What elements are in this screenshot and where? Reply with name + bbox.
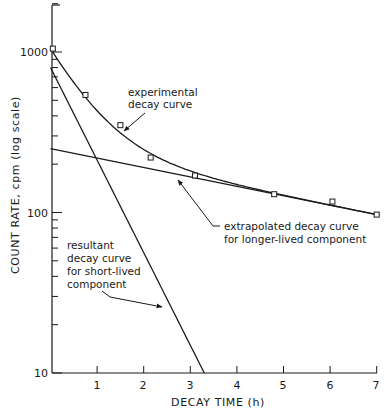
x-tick-label-7: 7 xyxy=(373,379,380,392)
annotation-experimental-arrow xyxy=(124,113,145,131)
axes xyxy=(52,5,377,373)
annotation-experimental-line1: experimental xyxy=(128,86,198,98)
annotation-extrapolated-line1: extrapolated decay curve xyxy=(224,220,359,232)
annotation-short-lived-arrow xyxy=(102,291,162,307)
extrapolated-longer-lived-line xyxy=(51,149,377,215)
annotation-short-lived-line2: decay curve xyxy=(67,252,131,264)
annotation-short-lived-line1: resultant xyxy=(67,239,114,251)
y-tick-label-10: 10 xyxy=(34,367,48,380)
x-tick-label-3: 3 xyxy=(187,379,194,392)
annotation-experimental: experimental decay curve xyxy=(124,86,198,131)
data-point-square xyxy=(148,155,153,160)
annotation-extrapolated: extrapolated decay curve for longer-live… xyxy=(178,180,366,245)
short-lived-component-line xyxy=(51,68,205,373)
annotation-short-lived-line3: for short-lived xyxy=(67,265,141,277)
decay-chart: 1000 100 10 1 2 3 4 5 6 7 DECAY TIME (h)… xyxy=(0,0,386,410)
y-tick-label-100: 100 xyxy=(27,207,48,220)
x-ticks xyxy=(97,366,377,373)
y-tick-label-1000: 1000 xyxy=(20,46,48,59)
data-point-square xyxy=(118,123,123,128)
x-axis-title: DECAY TIME (h) xyxy=(171,396,265,409)
data-point-square xyxy=(374,212,379,217)
x-tick-label-4: 4 xyxy=(234,379,241,392)
x-tick-label-1: 1 xyxy=(94,379,101,392)
annotation-short-lived: resultant decay curve for short-lived co… xyxy=(67,239,162,307)
series xyxy=(51,52,377,373)
data-point-square xyxy=(272,192,277,197)
annotation-extrapolated-line2: for longer-lived component xyxy=(224,233,366,245)
data-point-square xyxy=(83,92,88,97)
experimental-data-points xyxy=(50,46,379,217)
annotation-experimental-line2: decay curve xyxy=(128,98,192,110)
annotation-extrapolated-arrow xyxy=(178,180,220,226)
annotation-short-lived-line4: component xyxy=(67,278,126,290)
y-axis-title: COUNT RATE, cpm (log scale) xyxy=(9,96,22,274)
experimental-decay-curve xyxy=(53,52,377,214)
x-tick-label-6: 6 xyxy=(327,379,334,392)
x-tick-label-5: 5 xyxy=(280,379,287,392)
x-tick-label-2: 2 xyxy=(140,379,147,392)
data-point-square xyxy=(330,199,335,204)
data-point-square xyxy=(50,46,55,51)
data-point-square xyxy=(192,173,197,178)
